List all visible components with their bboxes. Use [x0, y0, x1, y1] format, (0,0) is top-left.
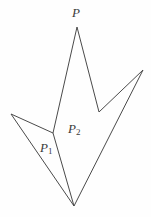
figure-canvas: P P1 P2 — [0, 0, 151, 217]
label-region-p1-subscript: 1 — [48, 146, 53, 156]
label-region-p1-base: P — [40, 140, 48, 155]
label-apex-p: P — [72, 6, 80, 19]
interior-chord — [53, 133, 74, 206]
label-region-p2: P2 — [68, 122, 80, 135]
polygon-outline — [11, 27, 143, 206]
label-region-p2-base: P — [68, 121, 76, 136]
label-region-p2-subscript: 2 — [76, 127, 81, 137]
label-region-p1: P1 — [40, 141, 52, 154]
polygon-diagram — [0, 0, 151, 217]
label-apex-p-text: P — [72, 5, 80, 20]
